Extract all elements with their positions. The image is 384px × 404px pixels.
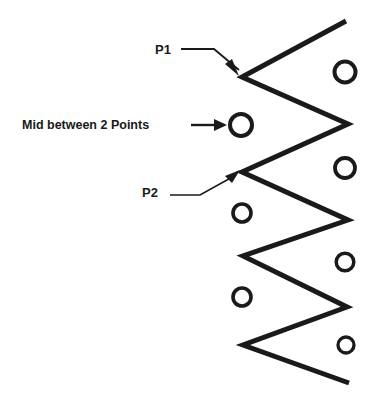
label-p2: P2 [142, 185, 158, 200]
figure-canvas: P1 P2 Mid between 2 Points [0, 0, 384, 404]
zigzag-diagram: P1 P2 Mid between 2 Points [0, 0, 384, 404]
figure-background [0, 0, 384, 404]
label-p1: P1 [155, 42, 171, 57]
label-mid-between-2-points: Mid between 2 Points [22, 118, 149, 132]
